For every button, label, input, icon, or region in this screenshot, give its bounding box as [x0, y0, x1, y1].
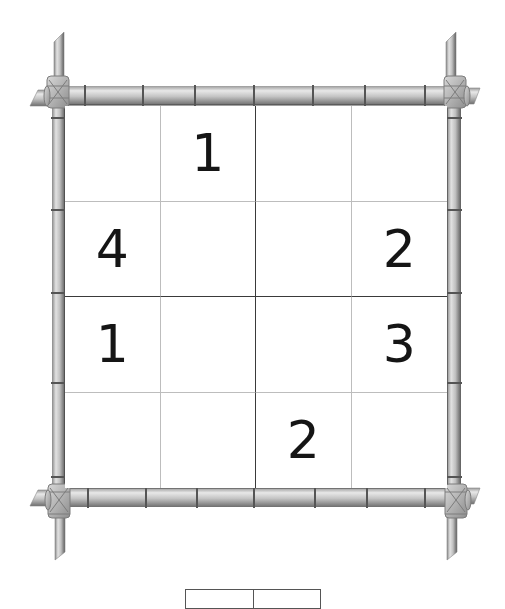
cell-r3-c4[interactable]: 3 — [352, 297, 448, 393]
cell-r1-c1[interactable] — [65, 106, 161, 202]
cell-r2-c2[interactable] — [161, 202, 257, 298]
rope-knot-top-left — [44, 76, 69, 108]
bamboo-bottom — [60, 487, 452, 508]
cell-r4-c3[interactable]: 2 — [256, 393, 352, 489]
bottom-panel-segment-right[interactable] — [253, 590, 321, 608]
cell-r1-c4[interactable] — [352, 106, 448, 202]
cell-r3-c1[interactable]: 1 — [65, 297, 161, 393]
cell-r3-c2[interactable] — [161, 297, 257, 393]
cell-r2-c1[interactable]: 4 — [65, 202, 161, 298]
rope-knot-top-right — [444, 76, 470, 108]
cell-r2-c4[interactable]: 2 — [352, 202, 448, 298]
rope-knot-bottom-left — [45, 484, 70, 518]
cell-r2-c3[interactable] — [256, 202, 352, 298]
bottom-panel-segment-left[interactable] — [186, 590, 253, 608]
cell-r4-c2[interactable] — [161, 393, 257, 489]
bottom-control-panel — [185, 589, 321, 609]
rope-knot-bottom-right — [445, 484, 471, 518]
cell-r3-c3[interactable] — [256, 297, 352, 393]
cell-r1-c3[interactable] — [256, 106, 352, 202]
bamboo-right — [446, 100, 462, 492]
sudoku-board: 1 4 2 1 3 2 — [65, 106, 447, 488]
bamboo-left — [51, 100, 66, 492]
cell-r4-c4[interactable] — [352, 393, 448, 489]
cell-r4-c1[interactable] — [65, 393, 161, 489]
bamboo-top — [60, 85, 452, 106]
cell-r1-c2[interactable]: 1 — [161, 106, 257, 202]
